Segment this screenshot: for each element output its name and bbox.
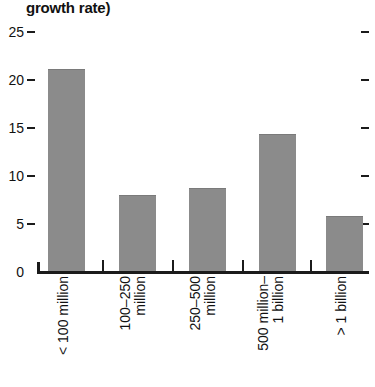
bar-250-500-million <box>189 188 226 272</box>
x-label-line: < 100 million <box>56 276 71 355</box>
x-label-line: 250–500 <box>188 276 203 331</box>
x-label-100-250-million: 100–250 million <box>118 276 148 387</box>
x-label-line: million <box>203 276 218 316</box>
bar-lt-100-million <box>48 69 85 272</box>
bar-series <box>0 0 375 272</box>
bar-500-million-1-billion <box>259 134 296 272</box>
x-label-line: million <box>133 276 148 316</box>
x-label-line: 500 million– <box>256 276 271 351</box>
x-label-line: 100–250 <box>118 276 133 331</box>
x-axis-labels: < 100 million 100–250 million 250–500 mi… <box>0 276 375 387</box>
x-label-lt-100-million: < 100 million <box>56 276 71 387</box>
bar-100-250-million <box>119 195 156 272</box>
x-label-250-500-million: 250–500 million <box>188 276 218 387</box>
bar-gt-1-billion <box>326 216 363 272</box>
chart-figure: growth rate) 25 20 15 10 5 0 < 100 milli… <box>0 0 375 387</box>
x-axis-line <box>37 271 369 274</box>
x-label-line: 1 billion <box>271 276 286 323</box>
x-label-line: > 1 billion <box>334 276 349 336</box>
x-label-gt-1-billion: > 1 billion <box>334 276 349 387</box>
x-label-500-million-1-billion: 500 million– 1 billion <box>256 276 286 387</box>
